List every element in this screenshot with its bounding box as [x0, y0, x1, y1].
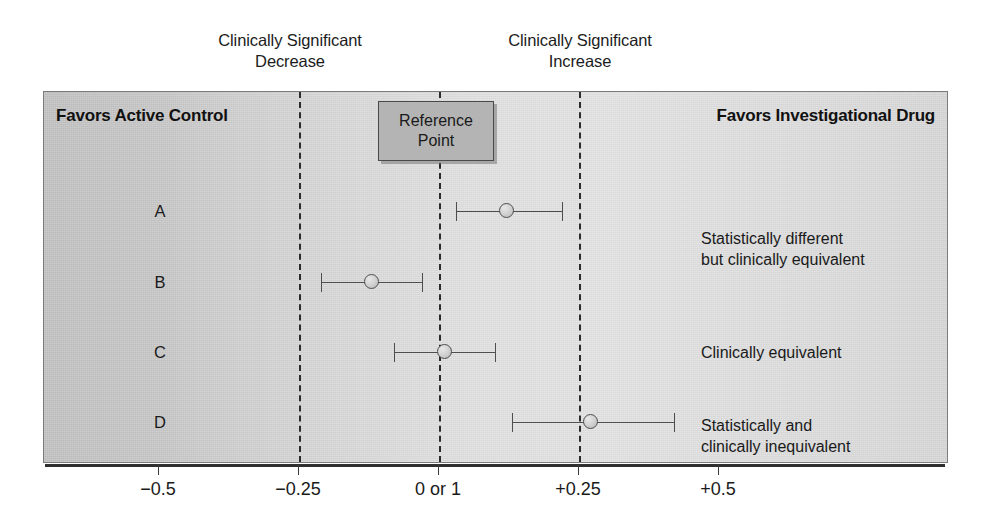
axis-tick — [718, 464, 719, 475]
ci-cap-high — [562, 202, 563, 221]
clinically-significant-decrease-caption: Clinically Significant Decrease — [150, 30, 430, 72]
study-label-a: A — [154, 202, 165, 221]
axis-tick-label: +0.25 — [555, 479, 601, 500]
ci-cap-high — [422, 273, 423, 292]
plot-panel: Favors Active Control Favors Investigati… — [43, 91, 948, 463]
axis-tick-label: −0.25 — [275, 479, 321, 500]
study-label-d: D — [154, 413, 166, 432]
interpretation-note-a: Statistically different but clinically e… — [701, 228, 865, 270]
axis-tick — [158, 464, 159, 475]
upper-equivalence-margin-line — [579, 92, 581, 462]
reference-point-box: Reference Point — [378, 101, 494, 161]
lower-equivalence-margin-line — [299, 92, 301, 462]
point-estimate-marker — [364, 274, 379, 289]
forest-plot-figure: Clinically Significant Decrease Clinical… — [0, 0, 986, 522]
point-estimate-marker — [437, 344, 452, 359]
favors-investigational-drug-header: Favors Investigational Drug — [717, 106, 935, 126]
point-estimate-marker — [499, 203, 514, 218]
interpretation-note-c: Clinically equivalent — [701, 342, 842, 363]
ci-cap-low — [512, 413, 513, 432]
axis-tick — [438, 464, 439, 475]
axis-tick — [298, 464, 299, 475]
point-estimate-marker — [583, 414, 598, 429]
axis-tick-label: −0.5 — [140, 479, 176, 500]
ci-cap-low — [456, 202, 457, 221]
axis-tick-label: +0.5 — [700, 479, 736, 500]
axis-tick — [578, 464, 579, 475]
ci-cap-high — [495, 343, 496, 362]
ci-cap-low — [394, 343, 395, 362]
favors-active-control-header: Favors Active Control — [56, 106, 228, 126]
ci-cap-high — [674, 413, 675, 432]
study-label-b: B — [154, 273, 165, 292]
clinically-significant-increase-caption: Clinically Significant Increase — [440, 30, 720, 72]
ci-cap-low — [321, 273, 322, 292]
x-axis-line — [45, 464, 945, 467]
study-label-c: C — [154, 343, 166, 362]
axis-tick-label: 0 or 1 — [415, 479, 461, 500]
interpretation-note-d: Statistically and clinically inequivalen… — [701, 415, 850, 457]
